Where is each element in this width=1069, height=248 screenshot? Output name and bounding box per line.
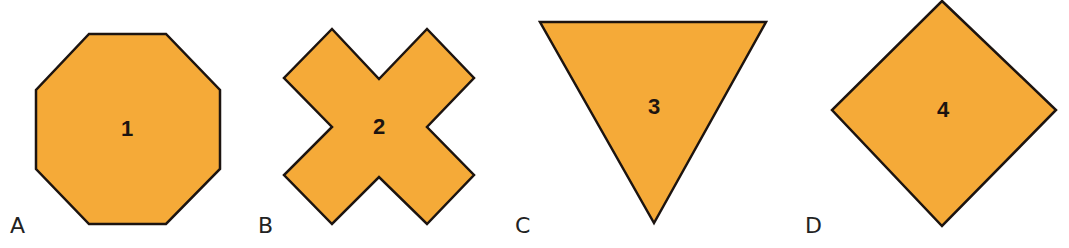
shapes-figure: 1 A 2 B 3 C 4 D bbox=[0, 0, 1069, 248]
option-d: 4 D bbox=[805, 1, 1056, 238]
option-letter: C bbox=[515, 213, 530, 238]
shape-number: 4 bbox=[937, 97, 950, 122]
option-b: 2 B bbox=[258, 29, 474, 238]
option-letter: D bbox=[805, 213, 822, 238]
shape-number: 1 bbox=[121, 116, 133, 141]
option-a: 1 A bbox=[10, 34, 220, 238]
inverted-triangle-shape bbox=[540, 22, 766, 223]
option-c: 3 C bbox=[515, 22, 766, 238]
option-letter: A bbox=[10, 213, 25, 238]
option-letter: B bbox=[258, 213, 273, 238]
shape-number: 3 bbox=[648, 94, 660, 119]
shape-number: 2 bbox=[373, 114, 385, 139]
